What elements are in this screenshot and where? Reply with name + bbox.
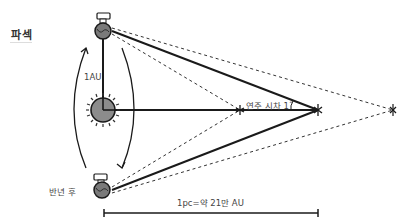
label-1au: 1AU — [84, 72, 101, 82]
label-parsec-definition: 1pc=약 21만 AU — [177, 196, 244, 208]
earth-telescope-bottom-icon — [94, 174, 110, 198]
parsec-scale-bar — [104, 209, 318, 217]
label-half-year-later: 반년 후 — [49, 185, 76, 197]
earth-telescope-top-icon — [95, 13, 111, 39]
label-parallax: 연주 시차 1˝ — [246, 99, 293, 111]
far-star-icon — [390, 104, 396, 116]
